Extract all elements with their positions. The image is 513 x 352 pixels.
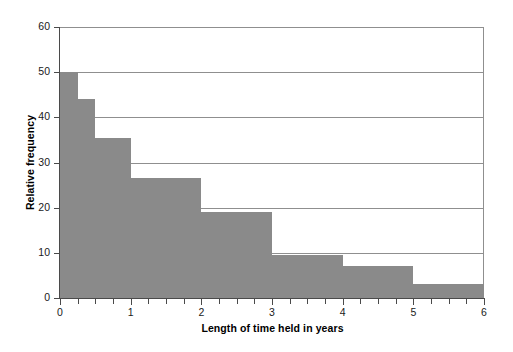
y-axis-tick-label: 10 xyxy=(20,247,50,258)
x-axis-tick-minor xyxy=(113,299,114,304)
y-axis-tick-label: 30 xyxy=(20,157,50,168)
x-axis-title: Length of time held in years xyxy=(60,322,485,334)
x-axis-tick-label: 3 xyxy=(260,306,284,318)
x-axis-tick-label: 5 xyxy=(401,306,425,318)
x-axis-tick-minor xyxy=(219,299,220,304)
x-axis-tick-minor xyxy=(95,299,96,304)
histogram-bar xyxy=(60,72,78,298)
x-axis-tick-minor xyxy=(148,299,149,304)
x-axis-tick-label: 6 xyxy=(472,306,496,318)
gridline xyxy=(60,117,484,118)
x-axis-tick-label: 0 xyxy=(48,306,72,318)
x-axis-tick-label: 2 xyxy=(189,306,213,318)
histogram-bar xyxy=(272,255,343,298)
histogram-bar xyxy=(413,284,484,298)
gridline xyxy=(60,72,484,73)
x-axis-tick-major xyxy=(60,299,61,305)
x-axis-tick-major xyxy=(413,299,414,305)
y-axis-tick xyxy=(54,163,59,164)
y-axis-tick xyxy=(54,298,59,299)
histogram-chart: Relative frequency 0102030405060 0123456… xyxy=(0,0,513,352)
x-axis-tick-major xyxy=(201,299,202,305)
y-axis-tick xyxy=(54,208,59,209)
x-axis-tick-minor xyxy=(237,299,238,304)
histogram-bar xyxy=(131,178,202,298)
y-axis-tick-label: 60 xyxy=(20,21,50,32)
x-axis-tick-minor xyxy=(166,299,167,304)
x-axis-tick-minor xyxy=(466,299,467,304)
x-axis-tick-major xyxy=(272,299,273,305)
x-axis-tick-minor xyxy=(378,299,379,304)
y-axis-tick-label: 0 xyxy=(20,292,50,303)
y-axis-tick xyxy=(54,117,59,118)
x-axis-tick-major xyxy=(131,299,132,305)
x-axis-tick-minor xyxy=(254,299,255,304)
y-axis-tick xyxy=(54,253,59,254)
plot-area xyxy=(60,27,484,298)
y-axis-tick-label: 20 xyxy=(20,202,50,213)
x-axis-tick-minor xyxy=(307,299,308,304)
x-axis-tick-minor xyxy=(431,299,432,304)
y-axis-tick xyxy=(54,72,59,73)
x-axis-tick-label: 4 xyxy=(331,306,355,318)
x-axis-tick-minor xyxy=(184,299,185,304)
x-axis-tick-minor xyxy=(290,299,291,304)
x-axis-tick-minor xyxy=(78,299,79,304)
histogram-bar xyxy=(343,266,414,298)
x-axis-tick-minor xyxy=(396,299,397,304)
x-axis-tick-major xyxy=(484,299,485,305)
y-axis-tick xyxy=(54,27,59,28)
histogram-bar xyxy=(78,99,96,298)
x-axis-tick-major xyxy=(343,299,344,305)
x-axis-tick-minor xyxy=(360,299,361,304)
x-axis-tick-minor xyxy=(325,299,326,304)
y-axis-tick-label: 40 xyxy=(20,111,50,122)
x-axis-tick-label: 1 xyxy=(119,306,143,318)
x-axis-tick-minor xyxy=(449,299,450,304)
plot-frame-top-border xyxy=(60,27,484,28)
histogram-bar xyxy=(201,212,272,298)
y-axis-tick-label: 50 xyxy=(20,66,50,77)
histogram-bar xyxy=(95,138,130,298)
